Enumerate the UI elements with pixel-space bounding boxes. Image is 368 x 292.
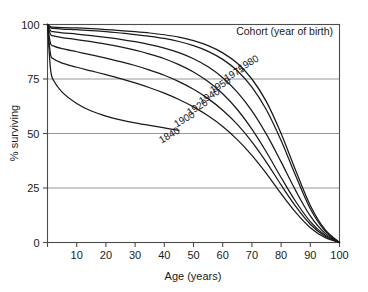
x-tick-label-10: 10 — [71, 249, 83, 261]
x-axis-tick-labels: 102030405060708090100 — [71, 249, 349, 261]
survival-curve-chart: 102030405060708090100 0255075100 1980197… — [0, 0, 368, 292]
x-tick-label-30: 30 — [129, 249, 141, 261]
x-tick-label-50: 50 — [187, 249, 199, 261]
y-tick-label-25: 25 — [27, 182, 39, 194]
legend-title: Cohort (year of birth) — [236, 25, 333, 37]
y-axis-title: % surviving — [8, 105, 20, 161]
y-tick-label-100: 100 — [21, 19, 39, 31]
x-tick-label-70: 70 — [246, 249, 258, 261]
x-axis-title: Age (years) — [165, 270, 222, 282]
curve-1840 — [48, 25, 179, 131]
chart-canvas: 102030405060708090100 0255075100 1980197… — [0, 0, 368, 292]
series-labels: 1980197519501940192019001840 — [157, 52, 261, 145]
x-tick-label-90: 90 — [304, 249, 316, 261]
x-axis-ticks — [48, 243, 340, 248]
x-tick-label-60: 60 — [217, 249, 229, 261]
y-axis-tick-labels: 0255075100 — [21, 19, 39, 249]
y-tick-label-0: 0 — [33, 237, 39, 249]
x-tick-label-100: 100 — [330, 249, 348, 261]
x-tick-label-20: 20 — [100, 249, 112, 261]
x-tick-label-80: 80 — [275, 249, 287, 261]
y-axis-ticks — [43, 25, 48, 243]
y-tick-label-50: 50 — [27, 128, 39, 140]
y-tick-label-75: 75 — [27, 73, 39, 85]
x-tick-label-40: 40 — [158, 249, 170, 261]
